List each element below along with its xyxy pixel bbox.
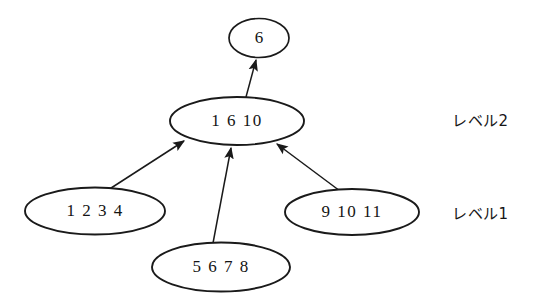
edge-left-to-level2 <box>108 141 184 190</box>
node-level1-left[interactable]: 1 2 3 4 <box>25 188 165 235</box>
node-top-label: 6 <box>255 28 264 47</box>
edge-level2-to-top <box>246 60 256 97</box>
node-level2[interactable]: 1 6 10 <box>170 97 304 145</box>
node-level2-label: 1 6 10 <box>211 111 263 130</box>
lattice-diagram: 6 1 6 10 1 2 3 4 5 6 7 8 9 10 11 レベル2 <box>0 0 546 299</box>
node-level1-left-label: 1 2 3 4 <box>66 201 123 220</box>
edge-middle-to-level2 <box>213 148 231 243</box>
edge-right-to-level2 <box>277 144 340 191</box>
node-top[interactable]: 6 <box>229 19 289 58</box>
node-level1-middle-label: 5 6 7 8 <box>192 257 249 276</box>
label-level-1: レベル1 <box>452 205 509 223</box>
diagram-container: 6 1 6 10 1 2 3 4 5 6 7 8 9 10 11 レベル2 <box>0 0 546 299</box>
node-group: 6 1 6 10 1 2 3 4 5 6 7 8 9 10 11 <box>25 19 419 292</box>
level-label-group: レベル2 レベル1 <box>452 112 509 223</box>
label-level-2: レベル2 <box>452 112 509 130</box>
node-level1-right[interactable]: 9 10 11 <box>285 189 419 235</box>
node-level1-right-label: 9 10 11 <box>322 202 383 221</box>
node-level1-middle[interactable]: 5 6 7 8 <box>152 243 290 292</box>
